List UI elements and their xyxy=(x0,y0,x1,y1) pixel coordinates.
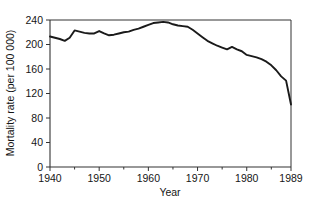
x-tick-label: 1950 xyxy=(88,172,112,184)
x-tick-label: 1970 xyxy=(186,172,210,184)
plot-frame xyxy=(50,20,291,167)
y-tick-label: 160 xyxy=(25,63,43,75)
y-tick-label: 200 xyxy=(25,38,43,50)
y-axis-tick-labels: 04080120160200240 xyxy=(25,14,43,173)
mortality-rate-line-chart: 04080120160200240 1940195019601970198019… xyxy=(0,0,316,206)
y-axis-ticks xyxy=(46,20,50,167)
x-tick-label: 1980 xyxy=(235,172,259,184)
x-axis-tick-labels: 194019501960197019801989 xyxy=(38,172,303,184)
y-tick-label: 240 xyxy=(25,14,43,26)
x-tick-label: 1940 xyxy=(38,172,62,184)
x-axis-ticks xyxy=(50,167,291,171)
y-tick-label: 120 xyxy=(25,87,43,99)
mortality-rate-series-line xyxy=(50,22,291,105)
y-tick-label: 0 xyxy=(37,161,43,173)
x-tick-label: 1960 xyxy=(137,172,161,184)
y-axis-title: Mortality rate (per 100 000) xyxy=(4,30,16,157)
y-tick-label: 80 xyxy=(31,112,43,124)
chart-figure: 04080120160200240 1940195019601970198019… xyxy=(0,0,316,206)
x-tick-label: 1989 xyxy=(279,172,303,184)
x-axis-title: Year xyxy=(159,186,181,198)
y-tick-label: 40 xyxy=(31,136,43,148)
